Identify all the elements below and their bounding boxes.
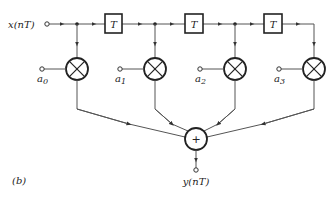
figure-label: (b) bbox=[12, 175, 26, 186]
svg-text:+: + bbox=[191, 133, 200, 146]
input-terminal bbox=[45, 22, 49, 26]
multiplier-1 bbox=[144, 58, 166, 80]
coefficient-label-a3: a3 bbox=[274, 73, 285, 86]
multiplier-2 bbox=[224, 58, 246, 80]
input-label: x(nT) bbox=[8, 19, 35, 30]
coefficient-terminal-a2 bbox=[198, 67, 202, 71]
multiplier-3 bbox=[303, 58, 325, 80]
output-label: y(nT) bbox=[182, 176, 210, 187]
delay-block-2: T bbox=[185, 14, 203, 33]
coefficient-label-a0: a0 bbox=[37, 73, 48, 86]
coefficient-label-a1: a1 bbox=[115, 73, 126, 86]
coefficient-terminal-a0 bbox=[40, 67, 44, 71]
adder: + bbox=[185, 128, 207, 150]
coefficient-terminal-a1 bbox=[118, 67, 122, 71]
output-terminal bbox=[194, 168, 198, 172]
coefficient-terminal-a3 bbox=[277, 67, 281, 71]
delay-block-3: T bbox=[264, 14, 282, 33]
coefficient-label-a2: a2 bbox=[195, 73, 206, 86]
multiplier-0 bbox=[66, 58, 88, 80]
fir-filter-diagram: x(nT) T T T bbox=[0, 0, 333, 199]
delay-block-1: T bbox=[105, 14, 122, 33]
